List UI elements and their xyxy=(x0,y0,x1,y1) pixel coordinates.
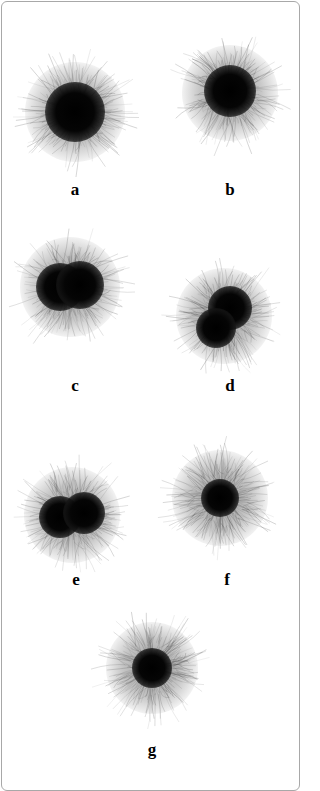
panel-label-g: g xyxy=(148,741,157,758)
cluster-core xyxy=(196,308,236,348)
panel-label-f: f xyxy=(224,571,230,588)
panel-label-e: e xyxy=(72,571,80,588)
cluster-core xyxy=(63,492,105,534)
panel-label-c: c xyxy=(71,377,79,394)
cluster-core xyxy=(132,648,172,688)
panel-label-a: a xyxy=(71,181,80,198)
panel-label-b: b xyxy=(225,181,234,198)
cluster-core xyxy=(56,261,104,309)
cluster-core xyxy=(201,479,239,517)
cluster-core xyxy=(204,65,256,117)
cluster-core xyxy=(45,82,105,142)
panel-label-d: d xyxy=(225,377,234,394)
